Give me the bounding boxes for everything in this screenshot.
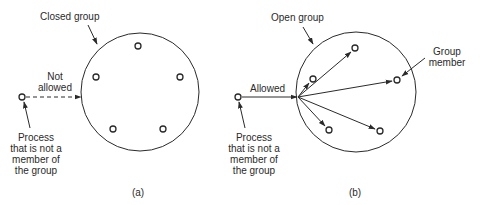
group-member-node [352,45,358,51]
closed-group-circle [81,33,199,151]
outside-pointer-arrow [239,102,245,128]
fanout-arrow [298,97,375,129]
outside-process-label-3: member of [230,154,278,165]
caption-b: (b) [349,187,361,198]
title-pointer-arrow [88,25,97,44]
group-member-node [160,126,166,132]
outside-process-label-4: the group [233,165,276,176]
caption-a: (a) [132,187,144,198]
panel-b-open-group: Allowed Open group Group member Process … [228,12,466,198]
outside-pointer-arrow [24,102,30,128]
outside-process-label-2: that is not a [228,143,280,154]
group-member-node [326,127,332,133]
outside-process-node [19,94,25,100]
fanout-arrow [298,83,309,97]
outside-process-label-4: the group [15,165,58,176]
outside-process-node [235,94,241,100]
title-pointer-arrow [303,27,313,44]
group-member-node [394,77,400,83]
group-member-node [310,76,316,82]
group-diagram: Closed group Not allowed Process that is… [0,0,480,205]
outside-process-label-2: that is not a [10,143,62,154]
group-member-node [93,74,99,80]
fanout-arrow [298,97,325,126]
group-member-node [110,126,116,132]
group-member-node [135,43,141,49]
open-group-title: Open group [271,12,324,23]
group-member-label-2: member [429,57,466,68]
not-allowed-label-1: Not [47,71,63,82]
group-member-node [377,128,383,134]
allowed-label: Allowed [250,83,285,94]
outside-process-label-1: Process [236,132,272,143]
group-member-node [177,74,183,80]
group-member-label-1: Group [433,46,461,57]
outside-process-label-1: Process [18,132,54,143]
closed-group-title: Closed group [40,11,100,22]
not-allowed-label-2: allowed [38,82,72,93]
outside-process-label-3: member of [12,154,60,165]
panel-a-closed-group: Closed group Not allowed Process that is… [10,11,199,198]
fanout-arrow [298,81,392,97]
